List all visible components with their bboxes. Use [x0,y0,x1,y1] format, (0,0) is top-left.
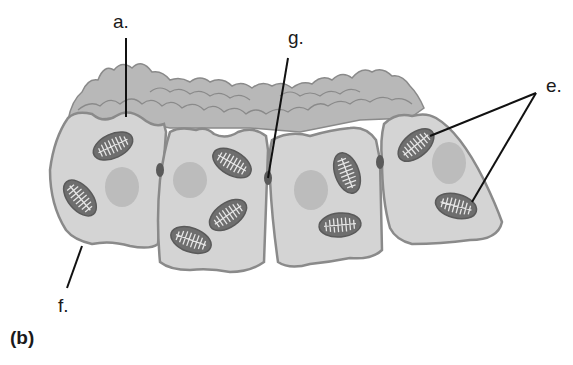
label-e: e. [546,76,562,95]
label-g: g. [288,28,304,47]
cell-3 [269,128,382,267]
cell-junction [156,163,164,177]
nucleus [294,170,328,210]
cell-junction [376,155,384,169]
leader-line-f [67,246,82,288]
nucleus [432,142,466,184]
label-f: f. [58,296,69,315]
label-a: a. [113,12,129,31]
panel-label: (b) [10,327,34,349]
cell-4 [381,114,502,244]
epithelium-diagram [0,0,573,365]
nucleus [105,167,139,207]
cell-2 [158,128,268,272]
leader-line-e2 [472,93,536,202]
leader-line-e1 [430,93,536,136]
cell-1 [50,112,166,247]
nucleus [173,162,207,198]
